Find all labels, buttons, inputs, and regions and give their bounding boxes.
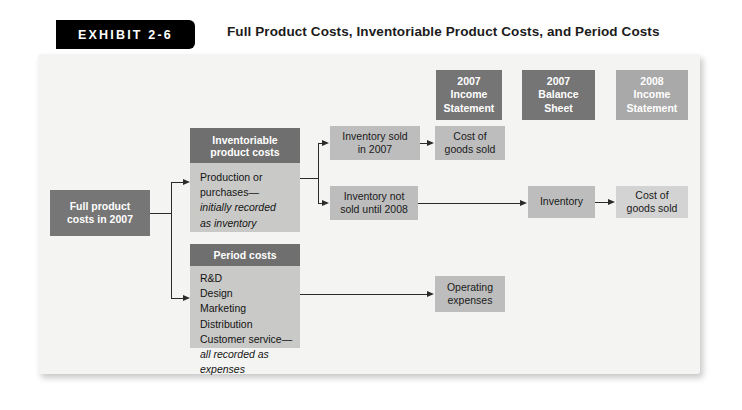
exhibit-figure: EXHIBIT 2-6 Full Product Costs, Inventor… (0, 0, 742, 410)
exhibit-tag: EXHIBIT 2-6 (56, 20, 195, 49)
group-header-text: Period costs (190, 244, 300, 266)
body-line: as inventory (200, 216, 300, 231)
header-line-2: Income (451, 88, 488, 101)
box-line-2: sold until 2008 (340, 203, 408, 216)
body-line: Production or (200, 170, 300, 185)
connector-notsold-to-inventory (418, 203, 520, 204)
arrow-to-inventory-not-sold (322, 200, 329, 206)
header-line-2: Income (634, 88, 671, 101)
group-body-period-costs: R&D Design Marketing Distribution Custom… (190, 266, 300, 348)
header-line-3: Statement (627, 102, 678, 115)
source-box-full-product-costs: Full product costs in 2007 (50, 190, 150, 236)
box-line-1: Operating (447, 281, 493, 294)
header-line-1: 2007 (547, 75, 570, 88)
flow-box-cost-of-goods-sold-2007: Cost of goods sold (435, 126, 505, 160)
group-header-label: Period costs (213, 249, 276, 261)
page-title: Full Product Costs, Inventoriable Produc… (227, 24, 660, 39)
source-line-1: Full product (70, 200, 131, 213)
body-line: Customer service— (200, 332, 300, 347)
body-line: all recorded as (200, 347, 300, 362)
column-header-2008-income-statement: 2008 Income Statement (616, 70, 688, 120)
column-header-2007-income-statement: 2007 Income Statement (436, 70, 502, 120)
box-line-2: expenses (448, 294, 493, 307)
arrow-to-inventory-sold-2007 (322, 140, 329, 146)
box-line-1: Inventory sold (342, 130, 407, 143)
header-line-3: Sheet (544, 102, 573, 115)
group-body-inventoriable-product-costs: Production or purchases— initially recor… (190, 163, 300, 232)
source-line-2: costs in 2007 (67, 213, 133, 226)
box-line-1: Cost of (635, 189, 668, 202)
box-line-1: Inventory not (344, 190, 405, 203)
body-line: Marketing (200, 301, 300, 316)
flow-box-cost-of-goods-sold-2008: Cost of goods sold (616, 186, 688, 218)
arrow-to-period-costs (183, 295, 190, 301)
flow-box-inventory-sold-2007: Inventory sold in 2007 (330, 126, 420, 160)
box-line-1: Cost of (453, 130, 486, 143)
column-header-2007-balance-sheet: 2007 Balance Sheet (522, 70, 595, 120)
arrow-to-cogs-2008 (608, 199, 615, 205)
connector-inventory-to-cogs2008 (595, 202, 609, 203)
group-header-line-2: product costs (210, 146, 279, 158)
box-line-1: Inventory (540, 195, 583, 208)
arrow-to-inventoriable (183, 179, 190, 185)
arrow-to-operating-expenses (427, 291, 434, 297)
header-line-1: 2008 (640, 75, 663, 88)
body-line: purchases— (200, 185, 300, 200)
group-header-text: Inventoriable product costs (190, 128, 300, 163)
flow-box-inventory-not-sold-until-2008: Inventory not sold until 2008 (330, 186, 418, 220)
flow-box-operating-expenses: Operating expenses (435, 276, 505, 312)
arrow-to-cogs-2007 (427, 140, 434, 146)
group-header-line-1: Inventoriable (212, 134, 277, 146)
connector-inventoriable-stub (300, 178, 318, 179)
connector-source-spine (171, 182, 172, 298)
connector-source-stub (150, 213, 171, 214)
group-header-period-costs: Period costs (190, 244, 300, 266)
header-line-3: Statement (444, 102, 495, 115)
box-line-2: in 2007 (358, 143, 392, 156)
body-line: R&D (200, 271, 300, 286)
connector-period-to-opex (300, 294, 427, 295)
connector-inventoriable-spine (318, 143, 319, 203)
body-line: expenses (200, 362, 300, 377)
body-line: Distribution (200, 317, 300, 332)
flow-box-inventory: Inventory (528, 186, 595, 218)
box-line-2: goods sold (627, 202, 678, 215)
header-line-2: Balance (538, 88, 578, 101)
box-line-2: goods sold (445, 143, 496, 156)
diagram-panel: 2007 Income Statement 2007 Balance Sheet… (38, 54, 700, 374)
body-line: initially recorded (200, 200, 300, 215)
exhibit-tag-label: EXHIBIT 2-6 (78, 28, 173, 42)
body-line: Design (200, 286, 300, 301)
header-line-1: 2007 (457, 75, 480, 88)
arrow-to-inventory (520, 200, 527, 206)
group-header-inventoriable-product-costs: Inventoriable product costs (190, 128, 300, 163)
